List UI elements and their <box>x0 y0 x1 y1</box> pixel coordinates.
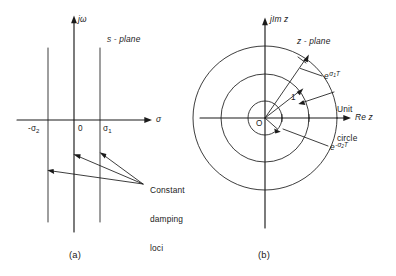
annotation-line-2: damping <box>150 215 185 225</box>
s-plane-constant-damping-loci-annotation: Constant damping loci <box>150 167 185 273</box>
s-plane-jomega-axis-label: jω <box>78 15 87 24</box>
s-plane-tick-sigma1: σ1 <box>103 124 112 136</box>
z-plane-outer-circle-label: e σ1T <box>324 69 340 81</box>
panel-b-geometry <box>193 18 351 229</box>
z-plane-radius-outer <box>265 54 309 118</box>
z-plane-inner-circle-label: e -σ2T <box>330 140 348 152</box>
panel-b-caption: (b) <box>258 250 270 259</box>
s-plane-sigma-axis-label: σ <box>156 115 161 124</box>
unit-circle-line-1: Unit <box>337 105 357 115</box>
z-plane-origin-label: O <box>256 119 263 128</box>
z-plane-leader-unit-label <box>298 92 334 105</box>
s-plane-annotation-leaders <box>47 152 143 184</box>
figure-root: jω σ s - plane -σ2 0 σ1 Constant damping… <box>0 0 396 276</box>
z-plane-unit-radius-label: 1 <box>291 93 296 102</box>
z-plane-name-label: z - plane <box>297 37 330 46</box>
s-plane-tick-origin: 0 <box>78 124 83 133</box>
annotation-line-3: loci <box>150 244 185 254</box>
z-plane-imaginary-axis-label: jIm z <box>270 15 288 24</box>
s-plane-jomega-axis <box>71 16 77 233</box>
z-plane-radius-unit <box>265 88 303 118</box>
s-plane-sigma-axis <box>17 117 152 123</box>
s-plane-name-label: s - plane <box>107 35 140 44</box>
z-plane-imaginary-axis <box>262 18 268 229</box>
annotation-line-1: Constant <box>150 186 185 196</box>
s-plane-tick-minus-sigma2: -σ2 <box>28 124 39 136</box>
z-plane-leader-inner-label <box>283 129 328 146</box>
z-plane-radius-inner <box>265 118 281 134</box>
z-plane-real-axis <box>200 115 351 121</box>
panel-a-caption: (a) <box>69 250 81 259</box>
z-plane-real-axis-label: Re z <box>355 113 373 122</box>
